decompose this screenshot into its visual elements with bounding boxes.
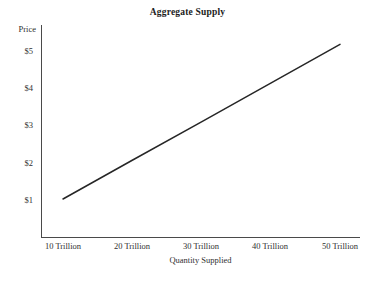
x-axis-line bbox=[41, 237, 360, 238]
y-tick-label-5: $5 bbox=[0, 46, 33, 56]
x-tick-label-20-trillion: 20 Trillion bbox=[92, 241, 172, 251]
aggregate-supply-line bbox=[63, 44, 340, 199]
y-axis-line bbox=[41, 25, 42, 238]
y-tick-label-1: $1 bbox=[0, 195, 33, 205]
x-tick-label-30-trillion: 30 Trillion bbox=[161, 241, 241, 251]
y-tick-label-4: $4 bbox=[0, 83, 33, 93]
x-tick-label-40-trillion: 40 Trillion bbox=[230, 241, 310, 251]
y-tick-label-3: $3 bbox=[0, 120, 33, 130]
x-tick-label-10-trillion: 10 Trillion bbox=[23, 241, 103, 251]
y-tick-label-2: $2 bbox=[0, 158, 33, 168]
chart-title: Aggregate Supply bbox=[0, 7, 375, 17]
chart-figure: Aggregate Supply Price $1 $2 $3 $4 $5 10… bbox=[0, 0, 375, 284]
x-tick-label-50-trillion: 50 Trillion bbox=[300, 241, 375, 251]
y-axis-label: Price bbox=[0, 24, 36, 34]
x-axis-label: Quantity Supplied bbox=[41, 255, 360, 265]
